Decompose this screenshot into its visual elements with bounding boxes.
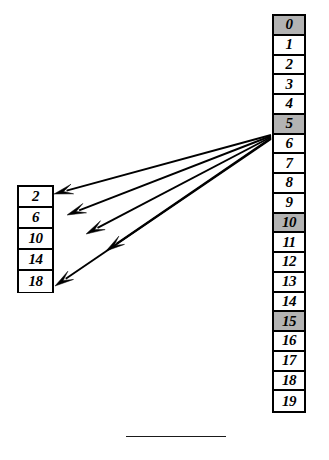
destination-cell: 5 [274, 115, 304, 135]
destination-cell: 8 [274, 174, 304, 194]
destination-cell: 7 [274, 154, 304, 174]
arrow-head [86, 221, 105, 234]
arrow-shaft [98, 137, 271, 228]
arrow-shaft [67, 135, 271, 191]
destination-cell: 13 [274, 273, 304, 293]
source-cell: 2 [19, 187, 52, 208]
arrow-head [106, 236, 125, 251]
arrow-head [55, 271, 74, 286]
source-cell: 14 [19, 250, 52, 271]
destination-cell: 4 [274, 95, 304, 115]
source-cell: 18 [19, 271, 52, 292]
arrow-shaft [117, 138, 271, 244]
destination-cell: 2 [274, 56, 304, 76]
destination-cell: 15 [274, 312, 304, 332]
destination-cell: 19 [274, 391, 304, 411]
source-cell: 6 [19, 208, 52, 229]
footnote-rule [126, 436, 226, 437]
destination-cell: 10 [274, 214, 304, 234]
destination-cell: 16 [274, 332, 304, 352]
destination-cell: 0 [274, 16, 304, 36]
arrow-head [67, 203, 87, 215]
arrow-shaft [66, 139, 271, 279]
arrow-head [54, 184, 74, 194]
destination-cell: 14 [274, 293, 304, 313]
source-column: 26101418 [17, 185, 54, 293]
destination-cell: 18 [274, 372, 304, 392]
destination-cell: 11 [274, 233, 304, 253]
destination-cell: 12 [274, 253, 304, 273]
destination-cell: 17 [274, 352, 304, 372]
arrow-shaft [79, 136, 271, 210]
destination-cell: 9 [274, 194, 304, 214]
destination-cell: 1 [274, 36, 304, 56]
source-cell: 10 [19, 229, 52, 250]
destination-cell: 3 [274, 75, 304, 95]
destination-column: 012345678910111213141516171819 [272, 14, 306, 413]
destination-cell: 6 [274, 135, 304, 155]
diagram-canvas: 26101418 012345678910111213141516171819 [0, 0, 329, 460]
